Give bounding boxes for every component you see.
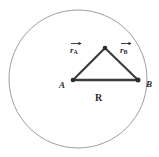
vertex-dot-b: [136, 78, 141, 83]
label-point-b: B: [146, 80, 152, 89]
vertex-dot-a: [71, 78, 76, 83]
vertex-dot-apex: [103, 46, 108, 51]
vector-a-text: rA: [70, 45, 78, 55]
vector-a-subscript: A: [74, 49, 78, 55]
vector-b-text: rB: [120, 45, 128, 55]
label-radius-r: R: [95, 93, 102, 103]
geometry-figure: A B R rA rB: [0, 0, 159, 157]
label-point-a: A: [59, 81, 65, 90]
figure-canvas: [0, 0, 159, 157]
vector-b-subscript: B: [124, 49, 128, 55]
